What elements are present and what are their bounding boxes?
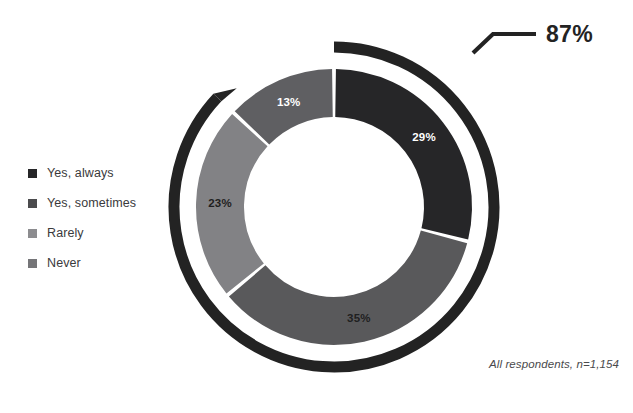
slice-value-label: 35% — [347, 312, 371, 324]
callout-leader-line — [473, 34, 536, 53]
slice-value-label: 13% — [277, 96, 301, 108]
total-callout-label: 87% — [546, 21, 593, 47]
donut-graphic: 29%35%23%13% 87% — [0, 0, 633, 413]
donut-ring — [220, 93, 448, 321]
donut-slice[interactable] — [247, 237, 444, 321]
donut-chart: Yes, always Yes, sometimes Rarely Never … — [0, 0, 633, 413]
slice-value-label: 23% — [208, 197, 232, 209]
donut-slice[interactable] — [336, 93, 448, 234]
chart-footnote: All respondents, n=1,154 — [489, 358, 619, 370]
slice-value-label: 29% — [412, 131, 436, 143]
